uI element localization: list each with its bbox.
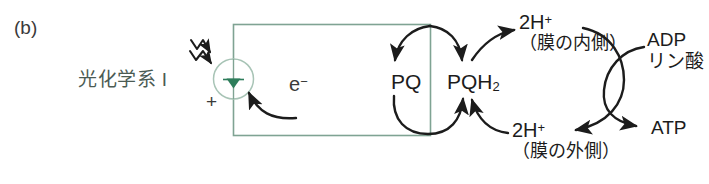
pqh2-subscript: 2 [493,79,500,94]
proton-outer-count: 2H [512,119,538,141]
electron-label: e− [289,74,308,95]
light-wave-arrow-icon-upper [191,40,210,52]
proton-inner-charge: + [545,12,553,27]
proton-inner-count: 2H [519,11,545,33]
adp-label: ADP [647,29,686,50]
light-wave-arrow-icon-lower [190,51,211,63]
pqh2-label: PQH2 [447,71,500,94]
electron-charge-superscript: − [300,74,308,89]
photosystem-positive-charge-label: + [206,92,217,112]
proton-inner-group: 2H+ （膜の内側） [519,12,627,53]
electron-flow-arrow [249,93,296,118]
proton-inner-count-label: 2H+ [519,11,552,33]
adp-substrate-group: ADP リン酸 [647,30,704,72]
pq-cycle-lower-arc [394,96,463,134]
photosystem-one-label: 光化学系 I [78,70,168,90]
proton-outer-charge: + [538,120,546,135]
pqh2-base: PQH [447,70,493,93]
proton-outer-group: 2H+ （膜の外側） [512,120,620,161]
photosystem-one-diagram: (b) 光化学系 I + e− PQ PQH2 2H+ （膜の内側） 2H+ （… [0,0,709,184]
pq-label: PQ [391,71,421,93]
proton-inner-location-label: （膜の内側） [519,34,627,53]
phosphate-label: リン酸 [647,52,704,72]
proton-outer-count-label: 2H+ [512,119,545,141]
proton-uptake-outer-arrow [472,100,508,133]
atp-product-label: ATP [651,118,687,138]
pq-cycle-upper-right-arc [430,26,462,60]
pq-cycle-upper-left-arc [395,26,430,60]
proton-outer-location-label: （膜の外側） [512,142,620,161]
electron-symbol: e [289,73,300,95]
proton-release-inner-arrow [472,30,514,60]
panel-label: (b) [14,18,37,38]
